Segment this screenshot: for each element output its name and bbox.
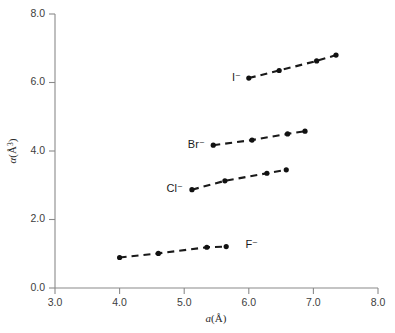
data-point <box>277 68 282 73</box>
y-tick-label: 2.0 <box>30 212 45 224</box>
data-point <box>156 251 161 256</box>
series-trend-line <box>120 247 227 258</box>
series-label-F−: F⁻ <box>246 238 259 250</box>
x-axis-title: a(Å) <box>206 312 227 325</box>
x-tick-label: 3.0 <box>48 296 63 308</box>
data-point <box>302 129 307 134</box>
data-point <box>314 58 319 63</box>
data-point <box>249 137 254 142</box>
y-tick-label: 4.0 <box>30 144 45 156</box>
y-tick-label: 0.0 <box>30 281 45 293</box>
data-series-layer: F⁻Cl⁻Br⁻I⁻ <box>117 53 339 261</box>
y-axis-title: α(Å3) <box>6 138 19 163</box>
series-label-Br−: Br⁻ <box>188 138 205 150</box>
series-trend-line <box>192 170 286 190</box>
data-point <box>284 167 289 172</box>
series-trend-line <box>249 55 336 78</box>
series-I−: I⁻ <box>232 53 339 83</box>
data-point <box>333 53 338 58</box>
x-tick-label: 6.0 <box>241 296 256 308</box>
x-tick-label: 4.0 <box>112 296 127 308</box>
y-tick-label: 8.0 <box>30 7 45 19</box>
x-axis-ticks: 3.04.05.06.07.08.0 <box>48 288 386 308</box>
chart-canvas: 0.02.04.06.08.0 3.04.05.06.07.08.0 F⁻Cl⁻… <box>0 0 395 333</box>
y-axis-ticks: 0.02.04.06.08.0 <box>30 7 55 293</box>
data-point <box>222 178 227 183</box>
data-point <box>117 255 122 260</box>
x-tick-label: 7.0 <box>306 296 321 308</box>
data-point <box>211 143 216 148</box>
data-point <box>246 75 251 80</box>
data-point <box>264 171 269 176</box>
x-tick-label: 8.0 <box>371 296 386 308</box>
y-tick-label: 6.0 <box>30 75 45 87</box>
series-trend-line <box>213 131 305 145</box>
series-label-Cl−: Cl⁻ <box>167 182 183 194</box>
data-point <box>189 187 194 192</box>
series-F−: F⁻ <box>117 238 258 260</box>
series-label-I−: I⁻ <box>232 71 241 83</box>
data-point <box>224 244 229 249</box>
data-point <box>204 245 209 250</box>
x-tick-label: 5.0 <box>177 296 192 308</box>
data-point <box>285 131 290 136</box>
series-Cl−: Cl⁻ <box>167 167 289 194</box>
polarizability-scatter-plot: 0.02.04.06.08.0 3.04.05.06.07.08.0 F⁻Cl⁻… <box>0 0 395 333</box>
series-Br−: Br⁻ <box>188 129 308 151</box>
